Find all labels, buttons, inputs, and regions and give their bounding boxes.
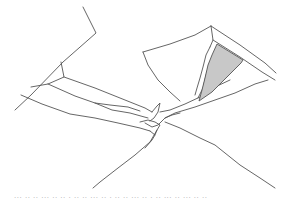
cloth-top-edge	[143, 26, 211, 52]
figure-caption: ··· ·· ·· ··· ·· ·· · ·· ·· ··· ·· · ·· …	[14, 194, 284, 202]
left-strip-top-edge	[64, 77, 152, 112]
cloth-left-edge	[143, 52, 180, 101]
lower-right-strand	[165, 122, 275, 188]
lower-left-strand	[93, 130, 157, 188]
knot-loop-lower	[140, 120, 160, 135]
knot-illustration	[0, 0, 291, 190]
cloth-corner-fold	[210, 26, 213, 47]
upper-left-edge	[15, 7, 96, 110]
knot-wrap	[145, 113, 180, 127]
line-drawing-figure	[0, 0, 291, 190]
left-strip-inner-fold	[95, 103, 140, 111]
